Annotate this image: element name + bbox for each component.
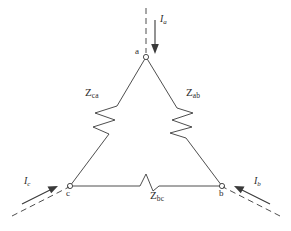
zca-symbol: Z <box>85 86 92 98</box>
supply-line-c-dashed <box>12 187 69 216</box>
current-label-ia: Ia <box>160 14 167 24</box>
impedance-label-zca: Zca <box>85 87 99 98</box>
current-label-ib: Ib <box>254 176 261 186</box>
node-label-c: c <box>66 189 70 198</box>
z-ca-zigzag-icon <box>93 106 117 134</box>
circuit-diagram-canvas: a b c Zca Zab Zbc Ia Ib Ic <box>0 0 291 231</box>
ic-subscript: c <box>27 180 30 188</box>
branch-ab <box>146 57 222 186</box>
branch-ab-lower-lead <box>186 138 222 186</box>
branch-ca-lower-lead <box>70 134 109 186</box>
ia-subscript: a <box>163 18 167 26</box>
branch-ca-upper-lead <box>117 57 146 106</box>
current-label-ic: Ic <box>24 176 30 186</box>
branch-ca <box>70 57 146 186</box>
zbc-symbol: Z <box>150 189 157 201</box>
branch-ab-upper-lead <box>146 57 177 108</box>
node-a-terminal <box>143 54 148 59</box>
zca-subscript: ca <box>92 91 99 100</box>
zab-subscript: ab <box>193 91 200 100</box>
z-ab-zigzag-icon <box>170 108 193 138</box>
zab-symbol: Z <box>186 86 193 98</box>
node-label-a: a <box>135 47 139 56</box>
delta-circuit-svg <box>0 0 291 231</box>
supply-line-b-dashed <box>223 187 280 216</box>
ib-subscript: b <box>257 180 261 188</box>
node-label-b: b <box>219 189 224 198</box>
current-arrow-ia <box>151 20 159 54</box>
impedance-label-zab: Zab <box>186 87 200 98</box>
branch-bc <box>70 174 222 191</box>
impedance-label-zbc: Zbc <box>150 190 164 201</box>
zbc-subscript: bc <box>157 194 164 203</box>
